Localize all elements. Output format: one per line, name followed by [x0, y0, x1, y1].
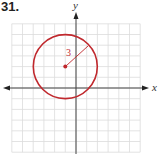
radius-label: 3	[66, 47, 71, 58]
x-axis-right-arrow-icon	[142, 86, 149, 91]
y-axis-label: y	[72, 0, 78, 11]
x-axis-left-arrow-icon	[3, 86, 10, 91]
coordinate-graph: x y 3	[0, 0, 160, 154]
y-axis	[74, 12, 79, 154]
y-axis-up-arrow-icon	[74, 12, 79, 19]
center-point	[63, 65, 67, 69]
x-axis-label: x	[151, 81, 157, 93]
